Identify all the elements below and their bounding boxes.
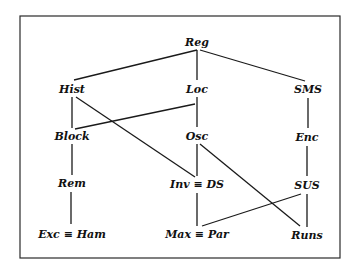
node-sus: SUS — [294, 179, 320, 192]
node-hist: Hist — [58, 83, 85, 96]
node-rem: Rem — [57, 177, 86, 190]
node-exc: Exc ≡ Ham — [37, 228, 106, 241]
node-runs: Runs — [290, 229, 322, 242]
node-enc: Enc — [294, 131, 318, 144]
node-group: RegHistLocSMSBlockOscEncRemInv ≡ DSSUSEx… — [37, 36, 323, 242]
edge-reg-hist — [74, 50, 197, 80]
node-osc: Osc — [186, 130, 209, 143]
edge-reg-sms — [200, 50, 305, 81]
node-loc: Loc — [185, 83, 208, 96]
edge-hist-inv — [76, 97, 195, 177]
node-block: Block — [53, 130, 90, 143]
node-sms: SMS — [294, 83, 322, 96]
edge-sus-max — [202, 194, 301, 226]
node-inv: Inv ≡ DS — [169, 178, 224, 191]
lattice-diagram: RegHistLocSMSBlockOscEncRemInv ≡ DSSUSEx… — [0, 0, 360, 273]
node-max: Max ≡ Par — [164, 228, 230, 241]
node-reg: Reg — [184, 36, 209, 49]
